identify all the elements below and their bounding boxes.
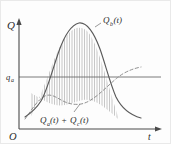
upper-curve-label-arg: (t) bbox=[114, 15, 123, 25]
upper-label-leader-line bbox=[95, 23, 101, 27]
lower-label-leader-line bbox=[74, 104, 80, 112]
y-axis-label: Q bbox=[7, 19, 15, 31]
x-axis-arrow-icon bbox=[155, 126, 162, 131]
threshold-label-subscript: a bbox=[11, 77, 14, 83]
upper-curve-label-group: Q b (t) bbox=[103, 15, 122, 27]
hydrograph-figure: Q t O q a Q b (t) Q a (t) + Q c (t) bbox=[0, 0, 171, 144]
lower-curve-label-operator: + bbox=[61, 115, 67, 125]
upper-curve-label-base: Q bbox=[103, 15, 110, 25]
lower-curve-label-term1-base: Q bbox=[40, 115, 47, 125]
lower-curve-label-group: Q a (t) + Q c (t) bbox=[40, 115, 89, 127]
y-axis-arrow-icon bbox=[16, 18, 21, 25]
lower-curve-label-term2-arg: (t) bbox=[80, 115, 89, 125]
lower-curve-label-term2-base: Q bbox=[70, 115, 77, 125]
lower-curve-label-term1-arg: (t) bbox=[50, 115, 59, 125]
hatched-area bbox=[32, 21, 117, 126]
threshold-label-group: q a bbox=[6, 72, 14, 83]
origin-label: O bbox=[9, 131, 17, 142]
figure-canvas: Q t O q a Q b (t) Q a (t) + Q c (t) bbox=[1, 1, 171, 144]
x-axis-label: t bbox=[148, 132, 151, 142]
lower-dashed-curve bbox=[25, 67, 141, 119]
